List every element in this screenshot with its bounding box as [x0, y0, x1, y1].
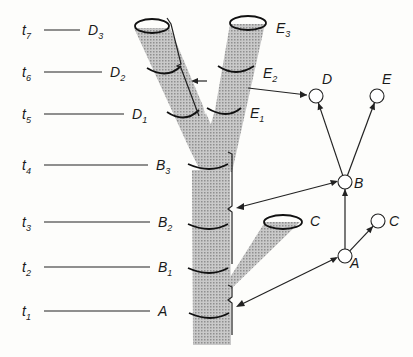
tree-node-label-b: B: [354, 175, 363, 191]
stage-label-d2: D2: [110, 64, 125, 83]
branch-label-e1: E1: [250, 105, 264, 124]
stage-label-b3: B3: [156, 157, 170, 176]
branch-labels: E3E2E1C: [250, 20, 321, 229]
arrowhead-icon: [342, 189, 348, 196]
arrowhead-icon: [318, 103, 324, 111]
time-label-t6: t6: [22, 64, 31, 83]
time-axis: t7D3t6D2t5D1t4B3t3B2t2B1t1A: [22, 22, 172, 322]
tree-node-d: [309, 89, 323, 103]
stage-label-b2: B2: [158, 214, 172, 233]
branch-label-e3: E3: [276, 20, 290, 39]
branch-label-c: C: [310, 213, 321, 229]
tree-node-b: [338, 175, 352, 189]
arrowhead-icon: [369, 103, 375, 111]
stage-label-d3: D3: [88, 22, 103, 41]
time-label-t3: t3: [22, 214, 31, 233]
tree-node-label-d: D: [322, 71, 332, 87]
time-label-t2: t2: [22, 259, 31, 278]
branch-label-e2: E2: [263, 65, 277, 84]
phylogenetic-tree: DEBAC: [309, 71, 400, 271]
tree-node-label-c: C: [389, 213, 400, 229]
time-label-t4: t4: [22, 157, 31, 176]
tree-edge-B-E: [347, 103, 374, 176]
tree-edge-B-D: [318, 103, 343, 176]
time-label-t7: t7: [22, 22, 32, 41]
time-label-t5: t5: [22, 106, 32, 125]
tree-node-label-a: A: [349, 255, 359, 271]
tree-node-c: [371, 214, 385, 228]
time-label-t1: t1: [22, 303, 31, 322]
stage-label-b1: B1: [158, 259, 172, 278]
lineage-diagram: t7D3t6D2t5D1t4B3t3B2t2B1t1A E3E2E1C DEBA…: [0, 0, 413, 357]
tree-node-e: [370, 89, 384, 103]
tree-node-label-e: E: [382, 71, 392, 87]
stage-label-d1: D1: [132, 106, 147, 125]
stage-label-a: A: [157, 303, 167, 319]
